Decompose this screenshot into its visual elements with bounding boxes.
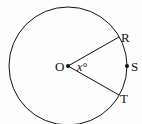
angle-label: x° <box>76 60 87 74</box>
center-point <box>66 64 70 68</box>
circle-diagram: O x° R S T <box>0 0 142 124</box>
label-O: O <box>55 59 64 74</box>
label-R: R <box>121 30 130 45</box>
radius-OR <box>68 37 119 66</box>
label-S: S <box>131 59 138 74</box>
radius-OT <box>68 66 119 95</box>
label-T: T <box>120 91 128 106</box>
point-S <box>125 64 129 68</box>
